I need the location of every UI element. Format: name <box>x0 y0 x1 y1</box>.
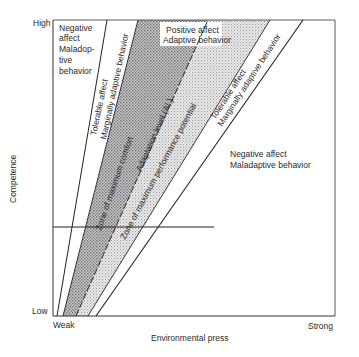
left-negative-label-1: Negative <box>59 23 93 33</box>
right-negative-label-2: Maladaptive behavior <box>230 160 311 170</box>
positive-affect-label-1: Positive affect <box>166 25 219 35</box>
adaptation-diagram: High Low Weak Strong Environmental press… <box>0 0 359 357</box>
left-negative-label-3: Maladop- <box>59 44 95 54</box>
right-negative-label-1: Negative affect <box>230 149 287 159</box>
left-negative-label-4: tive <box>59 55 73 65</box>
left-negative-label-5: behavior <box>59 66 92 76</box>
x-weak-label: Weak <box>53 320 75 330</box>
left-negative-label-2: affect <box>59 33 80 43</box>
y-high-label: High <box>33 18 51 28</box>
positive-affect-label-2: Adaptive behavior <box>163 35 231 45</box>
x-strong-label: Strong <box>308 321 333 331</box>
y-low-label: Low <box>32 306 48 316</box>
y-axis-title: Competence <box>8 155 18 203</box>
x-axis-title: Environmental press <box>151 333 228 343</box>
